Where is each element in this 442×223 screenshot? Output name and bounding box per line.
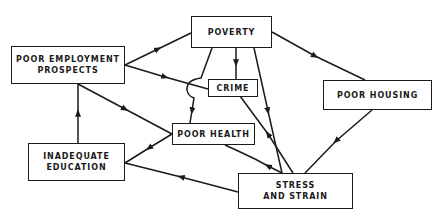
node-employment-label-line1: POOR EMPLOYMENT [16, 54, 120, 65]
node-education-label-line1: INADEQUATE [43, 151, 110, 162]
node-poor-housing: POOR HOUSING [323, 80, 432, 110]
node-health-label: POOR HEALTH [177, 129, 250, 140]
node-inadequate-education: INADEQUATE EDUCATION [28, 143, 125, 181]
edge-poverty-stress [254, 48, 282, 173]
causal-diagram: POVERTY POOR EMPLOYMENT PROSPECTS CRIME … [0, 0, 442, 223]
node-stress-and-strain: STRESS AND STRAIN [238, 173, 353, 209]
edge-poverty-housing [272, 32, 365, 80]
edge-employment-health [78, 84, 172, 134]
node-crime-label: CRIME [217, 83, 250, 94]
node-stress-label-line2: AND STRAIN [263, 191, 328, 202]
node-housing-label: POOR HOUSING [337, 90, 418, 101]
node-poverty-label: POVERTY [208, 27, 255, 38]
node-employment-label-line2: PROSPECTS [37, 65, 98, 76]
node-poor-health: POOR HEALTH [172, 123, 255, 145]
edge-stress-education [125, 163, 238, 192]
edge-health-education [125, 134, 172, 163]
node-crime: CRIME [208, 79, 258, 97]
edge-employment-crime [125, 65, 208, 89]
node-education-label-line2: EDUCATION [46, 162, 106, 173]
edge-stress-health-tail [225, 145, 255, 159]
edge-stress-health [255, 159, 282, 173]
node-poverty: POVERTY [191, 16, 272, 48]
edge-housing-stress [305, 110, 372, 173]
node-stress-label-line1: STRESS [276, 180, 315, 191]
node-poor-employment-prospects: POOR EMPLOYMENT PROSPECTS [11, 46, 125, 84]
edge-employment-poverty [125, 33, 191, 65]
